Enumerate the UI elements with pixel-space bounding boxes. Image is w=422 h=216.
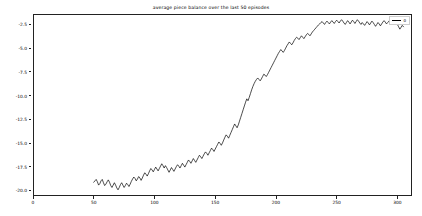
x-tick-mark [33,196,34,199]
y-tick-mark [29,143,32,144]
y-tick-label: -10.0 [16,93,27,98]
x-tick-mark [154,196,155,199]
y-tick-label: -2.5 [18,22,27,27]
y-tick-label: -5.0 [18,46,27,51]
x-tick-mark [336,196,337,199]
x-axis: 050100150200250300 [33,196,412,214]
legend: 0 [389,16,410,25]
y-tick-mark [29,119,32,120]
y-tick-label: -15.0 [16,140,27,145]
y-tick-mark [29,71,32,72]
x-tick-mark [215,196,216,199]
y-tick-label: -20.0 [16,188,27,193]
x-tick-label: 250 [332,200,340,205]
x-tick-mark [276,196,277,199]
chart-title: average piece balance over the last 50 e… [0,5,422,10]
series-polyline [94,19,404,190]
legend-line-swatch [392,20,401,21]
y-tick-label: -12.5 [16,117,27,122]
x-tick-mark [397,196,398,199]
series-line-chart [33,14,412,196]
x-tick-label: 200 [272,200,280,205]
legend-label: 0 [403,19,406,23]
plot-area: 0 [33,14,412,196]
x-tick-label: 50 [91,200,97,205]
x-tick-label: 300 [393,200,401,205]
y-tick-label: -17.5 [16,164,27,169]
chart-figure: average piece balance over the last 50 e… [0,0,422,216]
y-axis: -2.5-5.0-7.5-10.0-12.5-15.0-17.5-20.0 [0,14,31,196]
x-tick-label: 0 [32,200,35,205]
y-tick-mark [29,190,32,191]
x-tick-label: 150 [211,200,219,205]
y-tick-label: -7.5 [18,69,27,74]
y-tick-mark [29,166,32,167]
x-tick-mark [93,196,94,199]
y-tick-mark [29,48,32,49]
y-tick-mark [29,24,32,25]
x-tick-label: 100 [150,200,158,205]
y-tick-mark [29,95,32,96]
